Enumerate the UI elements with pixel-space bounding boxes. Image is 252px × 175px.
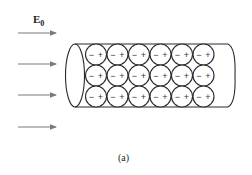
plus-charge: +	[184, 92, 189, 102]
dipole-molecule: −+	[129, 65, 150, 86]
minus-charge: −	[153, 71, 158, 81]
dipole-molecule: −+	[172, 65, 193, 86]
plus-charge: +	[119, 92, 124, 102]
minus-charge: −	[196, 50, 201, 60]
dipole-molecule: −+	[172, 86, 193, 107]
plus-charge: +	[162, 71, 167, 81]
plus-charge: +	[119, 71, 124, 81]
dipole-molecule: −+	[86, 86, 107, 107]
dipole-grid: −+−+−+−+−+−+−+−+−+−+−+−+−+−+−+−+−+−+	[86, 44, 215, 107]
plus-charge: +	[98, 71, 103, 81]
dipole-molecule: −+	[150, 86, 171, 107]
dipole-molecule: −+	[172, 44, 193, 65]
plus-charge: +	[98, 92, 103, 102]
plus-charge: +	[141, 92, 146, 102]
dipole-molecule: −+	[193, 65, 214, 86]
dipole-molecule: −+	[107, 86, 128, 107]
field-label: E0	[33, 13, 44, 28]
dipole-molecule: −+	[193, 44, 214, 65]
plus-charge: +	[205, 92, 210, 102]
plus-charge: +	[184, 50, 189, 60]
plus-charge: +	[205, 71, 210, 81]
plus-charge: +	[205, 50, 210, 60]
plus-charge: +	[162, 50, 167, 60]
minus-charge: −	[196, 92, 201, 102]
minus-charge: −	[175, 92, 180, 102]
minus-charge: −	[196, 71, 201, 81]
minus-charge: −	[132, 50, 137, 60]
minus-charge: −	[89, 50, 94, 60]
dipole-molecule: −+	[107, 65, 128, 86]
plus-charge: +	[184, 71, 189, 81]
minus-charge: −	[153, 92, 158, 102]
field-arrows	[18, 33, 56, 127]
plus-charge: +	[98, 50, 103, 60]
plus-charge: +	[119, 50, 124, 60]
minus-charge: −	[132, 92, 137, 102]
dipole-molecule: −+	[86, 65, 107, 86]
dipole-molecule: −+	[193, 86, 214, 107]
minus-charge: −	[110, 92, 115, 102]
minus-charge: −	[132, 71, 137, 81]
minus-charge: −	[175, 71, 180, 81]
cylinder-left-end	[66, 44, 85, 107]
plus-charge: +	[141, 50, 146, 60]
dipole-molecule: −+	[86, 44, 107, 65]
plus-charge: +	[141, 71, 146, 81]
minus-charge: −	[89, 71, 94, 81]
minus-charge: −	[110, 71, 115, 81]
minus-charge: −	[89, 92, 94, 102]
dipole-molecule: −+	[129, 44, 150, 65]
dielectric-cylinder-diagram: E0 −+−+−+−+−+−+−+−+−+−+−+−+−+−+−+−+−+−+ …	[0, 0, 252, 175]
figure-caption: (a)	[118, 152, 129, 164]
dipole-molecule: −+	[107, 44, 128, 65]
minus-charge: −	[175, 50, 180, 60]
dipole-molecule: −+	[150, 44, 171, 65]
dipole-molecule: −+	[129, 86, 150, 107]
minus-charge: −	[153, 50, 158, 60]
plus-charge: +	[162, 92, 167, 102]
cylinder-right-end	[228, 44, 235, 107]
dipole-molecule: −+	[150, 65, 171, 86]
minus-charge: −	[110, 50, 115, 60]
